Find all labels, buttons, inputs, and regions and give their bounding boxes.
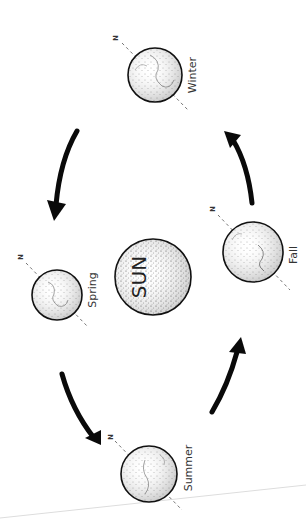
- earth-spring: N Spring: [17, 254, 99, 327]
- sun: SUN: [115, 239, 191, 315]
- north-label: N: [17, 254, 25, 260]
- orbit-arrow-winter-to-spring: [47, 131, 77, 221]
- orbit-arrow-fall-to-winter: [224, 131, 252, 203]
- season-label-summer: Summer: [182, 444, 195, 491]
- orbit-arrow-summer-to-fall: [212, 337, 246, 412]
- earth-fall: N Fall: [209, 206, 300, 290]
- north-label: N: [112, 35, 120, 41]
- season-label-winter: Winter: [186, 56, 199, 93]
- earth-winter: N Winter: [112, 35, 199, 110]
- seasons-diagram: SUN N Winter N Spring N Fall: [0, 0, 306, 529]
- north-label: N: [209, 206, 217, 212]
- orbit-arrow-spring-to-summer: [62, 374, 101, 445]
- north-label: N: [107, 434, 115, 440]
- season-label-fall: Fall: [287, 246, 300, 264]
- season-label-spring: Spring: [86, 272, 99, 308]
- sun-label: SUN: [127, 256, 151, 298]
